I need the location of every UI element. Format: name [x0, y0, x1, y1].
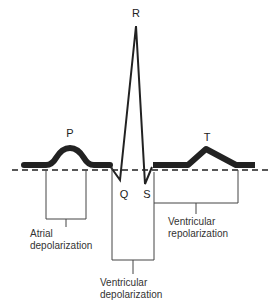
vdep-label-line-1: Ventricular: [100, 277, 162, 289]
atrial-depolarization-label: Atrial depolarization: [30, 228, 92, 252]
ventricular-depolarization-bracket: [112, 167, 154, 274]
p-wave: [24, 148, 110, 165]
label-t: T: [204, 131, 211, 143]
label-s: S: [143, 188, 150, 200]
qrs-complex: [110, 26, 152, 184]
vrep-label-line-1: Ventricular: [168, 216, 228, 228]
t-wave: [153, 149, 255, 165]
atrial-label-line-1: Atrial: [30, 228, 92, 240]
vdep-label-line-2: depolarization: [100, 289, 162, 301]
ventricular-depolarization-label: Ventricular depolarization: [100, 277, 162, 301]
label-r: R: [132, 7, 140, 19]
ecg-diagram: [0, 0, 276, 308]
label-q: Q: [120, 188, 129, 200]
ventricular-repolarization-label: Ventricular repolarization: [168, 216, 228, 240]
atrial-depolarization-bracket: [46, 170, 86, 227]
atrial-label-line-2: depolarization: [30, 240, 92, 252]
ventricular-repolarization-bracket: [154, 170, 238, 214]
label-p: P: [66, 127, 73, 139]
vrep-label-line-2: repolarization: [168, 228, 228, 240]
